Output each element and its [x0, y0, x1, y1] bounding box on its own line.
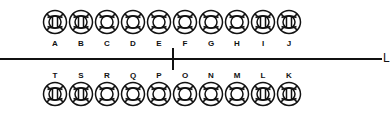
connector-pin-s-icon [68, 81, 94, 107]
pin-label-a: A [52, 40, 58, 48]
connector-pin-l-icon [250, 81, 276, 107]
pin-label-q: Q [130, 72, 136, 80]
connector-pin-c-icon [94, 9, 120, 35]
pin-label-g: G [208, 40, 214, 48]
connector-pin-t-icon [42, 81, 68, 107]
connector-pin-g-icon [198, 9, 224, 35]
connector-pin-a-icon [42, 9, 68, 35]
pin-label-l: L [261, 72, 266, 80]
connector-pin-p-icon [146, 81, 172, 107]
pin-label-k: K [286, 72, 292, 80]
pin-label-t: T [53, 72, 58, 80]
connector-pin-q-icon [120, 81, 146, 107]
pin-label-b: B [78, 40, 84, 48]
connector-pin-k-icon [276, 81, 302, 107]
connector-pin-j-icon [276, 9, 302, 35]
connector-pin-r-icon [94, 81, 120, 107]
connector-pin-b-icon [68, 9, 94, 35]
pin-label-f: F [183, 40, 188, 48]
pin-label-r: R [104, 72, 110, 80]
connector-pin-d-icon [120, 9, 146, 35]
pin-label-h: H [234, 40, 240, 48]
connector-pin-m-icon [224, 81, 250, 107]
center-tick-mark [172, 48, 174, 70]
pin-label-p: P [156, 72, 161, 80]
pin-label-o: O [182, 72, 188, 80]
connector-pin-o-icon [172, 81, 198, 107]
pin-label-s: S [78, 72, 83, 80]
line-label: L [383, 52, 390, 64]
pin-label-c: C [104, 40, 110, 48]
pin-label-n: N [208, 72, 214, 80]
pin-label-e: E [156, 40, 161, 48]
center-line [0, 58, 382, 60]
pin-label-j: J [287, 40, 291, 48]
connector-pin-i-icon [250, 9, 276, 35]
connector-pin-h-icon [224, 9, 250, 35]
connector-pin-n-icon [198, 81, 224, 107]
pin-layout-diagram: ABCDEFGHIJ TSRQPONMLK L [0, 0, 390, 128]
pin-label-i: I [262, 40, 264, 48]
pin-label-d: D [130, 40, 136, 48]
connector-pin-f-icon [172, 9, 198, 35]
pin-label-m: M [234, 72, 241, 80]
connector-pin-e-icon [146, 9, 172, 35]
